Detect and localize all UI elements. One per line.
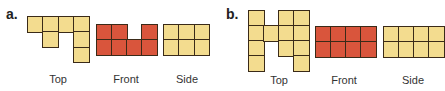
part-b-side-caption: Side [383, 74, 443, 86]
grid-cell [163, 39, 180, 56]
grid-cell [293, 55, 310, 72]
grid-cell [178, 24, 195, 41]
grid-cell [163, 24, 180, 41]
grid-cell [178, 39, 195, 56]
part-b-top-caption: Top [249, 74, 309, 86]
grid-cell [27, 16, 44, 33]
part-a-front-caption: Front [96, 73, 156, 85]
part-b-front-caption: Front [314, 74, 374, 86]
grid-cell [58, 16, 75, 33]
part-a-top-caption: Top [28, 73, 88, 85]
grid-cell [141, 39, 158, 56]
grid-cell [194, 24, 211, 41]
part-a-side-caption: Side [157, 73, 217, 85]
grid-cell [360, 41, 377, 58]
grid-cell [73, 47, 90, 64]
grid-cell [248, 55, 265, 72]
grid-cell [42, 31, 59, 48]
grid-cell [428, 41, 445, 58]
part-a-label: a. [6, 6, 18, 22]
grid-cell [42, 16, 59, 33]
part-b-label: b. [226, 6, 238, 22]
grid-cell [73, 31, 90, 48]
grid-cell [73, 16, 90, 33]
grid-cell [194, 39, 211, 56]
